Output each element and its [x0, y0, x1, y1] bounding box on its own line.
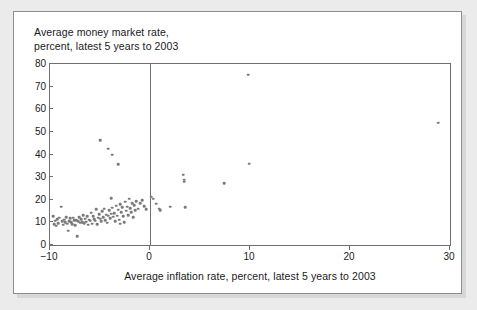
scatter-point — [125, 210, 128, 213]
scatter-point — [145, 208, 148, 211]
scatter-point — [118, 218, 121, 221]
scatter-point — [132, 216, 135, 219]
x-axis-tick-mark — [149, 246, 150, 250]
y-axis-tick-label: 60 — [24, 103, 46, 114]
scatter-point — [135, 200, 138, 203]
scatter-point — [120, 211, 123, 214]
scatter-point — [155, 203, 158, 206]
plot-area — [49, 63, 451, 246]
y-axis-tick-mark — [49, 176, 53, 177]
scatter-point — [108, 209, 111, 212]
scatter-point — [183, 181, 186, 184]
x-axis-tick-label: 20 — [343, 251, 354, 262]
scatter-point — [60, 205, 63, 208]
scatter-point — [65, 216, 68, 219]
scatter-point — [130, 211, 133, 214]
x-axis-tick-label: −10 — [41, 251, 58, 262]
y-axis-tick-mark — [49, 154, 53, 155]
y-axis-tick-mark — [49, 108, 53, 109]
x-axis-tick-mark — [49, 246, 50, 250]
scatter-point — [82, 214, 85, 217]
x-axis-title: Average inflation rate, percent, latest … — [49, 270, 451, 282]
scatter-point — [90, 212, 93, 215]
scatter-point — [117, 163, 120, 166]
y-axis-tick-label: 80 — [24, 58, 46, 69]
scatter-point — [94, 219, 97, 222]
x-axis-tick-mark — [449, 246, 450, 250]
scatter-point — [101, 210, 104, 213]
scatter-point — [95, 208, 98, 211]
scatter-point — [74, 224, 77, 227]
y-axis-tick-labels: 01020304050607080 — [22, 63, 46, 246]
plot-wrapper: 01020304050607080 −100102030 Average inf… — [14, 12, 463, 295]
scatter-point — [248, 162, 251, 165]
scatter-point — [152, 197, 155, 200]
scatter-point — [114, 220, 117, 223]
y-axis-tick-mark — [49, 199, 53, 200]
y-axis-tick-label: 30 — [24, 171, 46, 182]
scatter-point — [111, 206, 114, 209]
scatter-point — [139, 202, 142, 205]
scatter-point — [159, 209, 162, 212]
scatter-point — [86, 215, 89, 218]
scatter-point — [98, 213, 101, 216]
x-axis-tick-label: 10 — [243, 251, 254, 262]
y-axis-tick-label: 10 — [24, 216, 46, 227]
scatter-point — [123, 221, 126, 224]
x-axis-tick-mark — [249, 246, 250, 250]
scatter-point — [121, 206, 124, 209]
scatter-point — [182, 174, 185, 177]
scatter-point — [184, 206, 187, 209]
scatter-point — [62, 223, 65, 226]
scatter-point — [111, 153, 114, 156]
scatter-point — [67, 229, 70, 232]
y-axis-tick-label: 70 — [24, 80, 46, 91]
scatter-point — [141, 199, 144, 202]
scatter-point — [57, 222, 60, 225]
scatter-point — [107, 147, 110, 150]
scatter-point — [110, 197, 113, 200]
scatter-point — [247, 74, 250, 77]
scatter-point — [122, 215, 125, 218]
scatter-point — [106, 222, 109, 225]
scatter-point — [133, 204, 136, 207]
scatter-point — [124, 200, 127, 203]
y-axis-tick-mark — [49, 63, 53, 64]
scatter-point — [87, 224, 90, 227]
x-axis-tick-label: 30 — [443, 251, 454, 262]
scatter-point — [437, 122, 440, 125]
scatter-point — [55, 224, 58, 227]
scatter-point — [223, 182, 226, 185]
scatter-point — [127, 214, 130, 217]
scatter-point — [116, 214, 119, 217]
scatter-point — [129, 207, 132, 210]
scatter-point — [91, 222, 94, 225]
scatter-point — [119, 222, 122, 225]
scatter-point — [100, 220, 103, 223]
scatter-point — [112, 215, 115, 218]
x-axis-tick-label: 0 — [146, 251, 152, 262]
scatter-point — [76, 235, 79, 238]
scatter-point — [58, 217, 61, 220]
y-axis-tick-label: 20 — [24, 193, 46, 204]
y-axis-tick-mark — [49, 221, 53, 222]
scatter-point — [99, 139, 102, 142]
zero-reference-line — [150, 64, 151, 245]
y-axis-tick-mark — [49, 244, 53, 245]
scatter-point — [128, 198, 131, 201]
y-axis-tick-label: 50 — [24, 125, 46, 136]
y-axis-tick-mark — [49, 86, 53, 87]
scatter-point — [137, 208, 140, 211]
scatter-point — [169, 205, 172, 208]
scatter-point — [96, 223, 99, 226]
scatter-point — [115, 204, 118, 207]
x-axis-tick-mark — [349, 246, 350, 250]
scatter-point — [103, 207, 106, 210]
y-axis-tick-mark — [49, 131, 53, 132]
scatter-point — [66, 222, 69, 225]
figure-panel: Average money market rate, percent, late… — [13, 11, 462, 294]
scatter-point — [52, 215, 55, 218]
y-axis-tick-label: 40 — [24, 148, 46, 159]
y-axis-tick-label: 0 — [24, 239, 46, 250]
